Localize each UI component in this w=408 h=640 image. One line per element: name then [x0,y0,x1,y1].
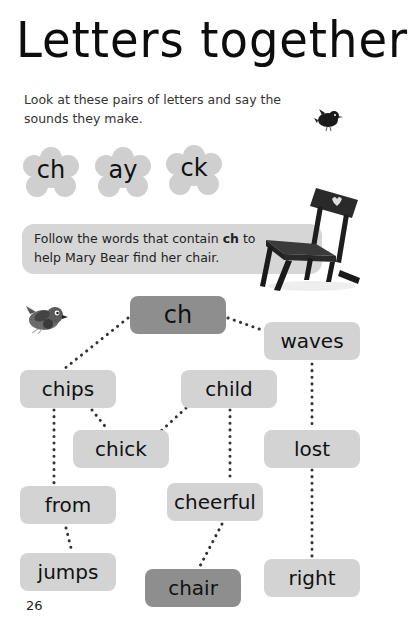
maze-word-chick[interactable]: chick [73,430,169,468]
path-chips-chick [92,410,108,430]
path-ch-waves [228,318,262,330]
maze-word-chips[interactable]: chips [20,370,116,408]
maze-word-jumps[interactable]: jumps [20,553,116,591]
maze-word-right[interactable]: right [264,559,360,597]
maze-word-from[interactable]: from [20,486,116,524]
path-child-chick [160,408,186,432]
maze-word-lost[interactable]: lost [264,430,360,468]
path-from-jumps [66,528,71,548]
maze-goal-chair[interactable]: chair [145,569,241,607]
maze-word-child[interactable]: child [181,370,277,408]
maze-word-waves[interactable]: waves [264,322,360,360]
maze-word-cheerful[interactable]: cheerful [167,483,263,521]
path-cheerful-chair [200,524,222,566]
path-ch-chips [64,318,128,369]
page-number: 26 [26,598,43,613]
maze-start-ch[interactable]: ch [130,296,226,334]
